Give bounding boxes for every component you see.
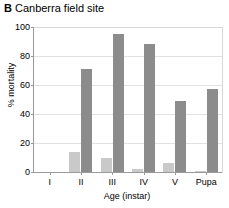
x-tick-mark xyxy=(206,172,207,175)
y-tick-label: 40 xyxy=(20,110,30,119)
panel-letter: B xyxy=(4,2,12,14)
bar-iv-light xyxy=(132,169,143,172)
y-tick-mark xyxy=(31,172,34,173)
bar-iii-light xyxy=(101,158,112,173)
y-tick-label: 0 xyxy=(25,168,30,177)
x-tick-label: I xyxy=(48,177,51,187)
x-tick-mark xyxy=(50,172,51,175)
page-title: BCanberra field site xyxy=(4,2,104,15)
bar-pupa-light xyxy=(195,171,206,172)
x-tick-mark xyxy=(175,172,176,175)
bar-v-light xyxy=(163,163,174,172)
plot-area: 020406080100IIIIIIIVVPupa xyxy=(33,27,222,173)
x-tick-label: III xyxy=(109,177,117,187)
bar-iii-dark xyxy=(113,34,124,172)
bar-group: III xyxy=(97,27,128,172)
y-tick-label: 20 xyxy=(20,139,30,148)
x-tick-mark xyxy=(112,172,113,175)
y-axis-title: % mortality xyxy=(6,43,16,127)
x-tick-label: II xyxy=(78,177,83,187)
panel-title-text: Canberra field site xyxy=(15,2,104,14)
x-axis-title: Age (instar) xyxy=(33,191,221,201)
bar-ii-dark xyxy=(81,69,92,172)
bar-group: IV xyxy=(128,27,159,172)
bar-group: V xyxy=(159,27,190,172)
y-tick-label: 80 xyxy=(20,52,30,61)
x-tick-label: IV xyxy=(139,177,148,187)
x-tick-label: Pupa xyxy=(196,177,217,187)
y-tick-label: 100 xyxy=(15,23,30,32)
bar-pupa-dark xyxy=(207,89,218,172)
bar-ii-light xyxy=(69,152,80,172)
x-tick-label: V xyxy=(172,177,178,187)
bar-chart: % mortality 020406080100IIIIIIIVVPupa Ag… xyxy=(0,16,229,208)
bar-group: I xyxy=(34,27,65,172)
bar-group: II xyxy=(65,27,96,172)
x-tick-mark xyxy=(144,172,145,175)
x-tick-mark xyxy=(81,172,82,175)
bar-v-dark xyxy=(175,101,186,172)
bar-iv-dark xyxy=(144,44,155,172)
bar-group: Pupa xyxy=(191,27,222,172)
y-tick-label: 60 xyxy=(20,81,30,90)
